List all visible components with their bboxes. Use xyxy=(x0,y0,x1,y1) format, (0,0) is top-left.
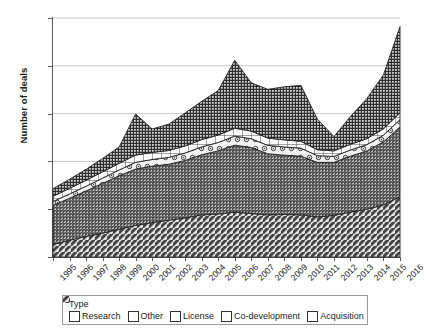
x-tick-label: 2015 xyxy=(388,262,409,283)
legend-title: Type xyxy=(69,299,362,310)
x-tick-label: 2002 xyxy=(173,262,194,283)
x-tick-mark xyxy=(367,257,368,261)
x-tick-mark xyxy=(202,257,203,261)
x-tick-label: 2001 xyxy=(157,262,178,283)
x-tick-mark xyxy=(53,257,54,261)
legend-swatch xyxy=(128,311,139,322)
x-tick-mark xyxy=(317,257,318,261)
x-tick-label: 2003 xyxy=(190,262,211,283)
x-tick-mark xyxy=(350,257,351,261)
stacked-area-svg xyxy=(53,18,400,257)
x-tick-mark xyxy=(383,257,384,261)
legend-label: Acquisition xyxy=(320,311,364,322)
legend-swatch xyxy=(221,311,232,322)
legend-label: Research xyxy=(82,311,121,322)
legend-label: Co-development xyxy=(234,311,300,322)
legend-items: ResearchOtherLicenseCo-developmentAcquis… xyxy=(69,311,362,322)
x-tick-mark xyxy=(103,257,104,261)
legend-label: Other xyxy=(141,311,164,322)
x-tick-label: 2009 xyxy=(289,262,310,283)
x-tick-label: 1996 xyxy=(74,262,95,283)
chart-container: Number of deals 05001000150020002500 199… xyxy=(0,0,428,336)
x-tick-mark xyxy=(400,257,401,261)
legend-item-acquisition[interactable]: Acquisition xyxy=(307,311,364,322)
x-tick-label: 1999 xyxy=(124,262,145,283)
x-tick-mark xyxy=(284,257,285,261)
x-tick-mark xyxy=(136,257,137,261)
x-tick-label: 1997 xyxy=(91,262,112,283)
x-tick-label: 2007 xyxy=(256,262,277,283)
x-tick-mark xyxy=(218,257,219,261)
x-tick-mark xyxy=(169,257,170,261)
legend-swatch xyxy=(307,311,318,322)
x-tick-label: 2013 xyxy=(355,262,376,283)
x-tick-label: 2004 xyxy=(206,262,227,283)
x-tick-mark xyxy=(235,257,236,261)
x-tick-label: 2000 xyxy=(140,262,161,283)
x-tick-label: 2011 xyxy=(322,262,342,282)
x-tick-mark xyxy=(86,257,87,261)
x-tick-mark xyxy=(185,257,186,261)
x-tick-mark xyxy=(70,257,71,261)
legend-item-co-development[interactable]: Co-development xyxy=(221,311,300,322)
legend: Type ResearchOtherLicenseCo-developmentA… xyxy=(62,295,368,325)
legend-label: License xyxy=(183,311,214,322)
y-axis-title: Number of deals xyxy=(18,41,29,171)
plot-area xyxy=(53,18,400,257)
x-tick-mark xyxy=(119,257,120,261)
legend-swatch xyxy=(69,311,80,322)
x-tick-mark xyxy=(301,257,302,261)
x-tick-label: 2005 xyxy=(223,262,244,283)
x-tick-mark xyxy=(251,257,252,261)
legend-item-license[interactable]: License xyxy=(170,311,214,322)
legend-item-research[interactable]: Research xyxy=(69,311,121,322)
x-tick-label: 2016 xyxy=(405,262,426,283)
legend-swatch xyxy=(170,311,181,322)
x-tick-label: 1995 xyxy=(58,262,79,283)
x-tick-label: 1998 xyxy=(107,262,128,283)
x-tick-mark xyxy=(152,257,153,261)
x-tick-mark xyxy=(268,257,269,261)
x-tick-mark xyxy=(334,257,335,261)
legend-item-other[interactable]: Other xyxy=(128,311,164,322)
